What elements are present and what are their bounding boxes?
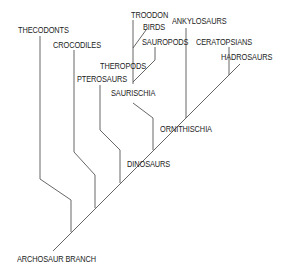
label-archosaur-branch: ARCHOSAUR BRANCH [17,254,96,264]
archosaur-cladogram: TROODON BIRDS ANKYLOSAURS THECODONTS SAU… [0,0,284,274]
pterosaurs-branch [100,85,120,183]
label-pterosaurs: PTEROSAURS [77,74,127,84]
label-theropods: THEROPODS [100,61,146,71]
label-hadrosaurs: HADROSAURS [221,52,272,62]
label-saurischia: SAURISCHIA [111,88,155,98]
saurischia-branch [133,103,153,150]
label-ornithischia: ORNITHISCHIA [160,124,212,134]
label-dinosaurs: DINOSAURS [127,159,170,169]
thecodonts-branch [40,36,71,232]
label-ceratopsians: CERATOPSIANS [196,37,252,47]
label-birds: BIRDS [143,22,165,32]
label-crocodiles: CROCODILES [53,40,101,50]
label-thecodonts: THECODONTS [18,25,69,35]
label-ankylosaurs: ANKYLOSAURS [172,16,227,26]
label-sauropods: SAUROPODS [142,37,188,47]
label-troodon: TROODON [131,10,168,20]
